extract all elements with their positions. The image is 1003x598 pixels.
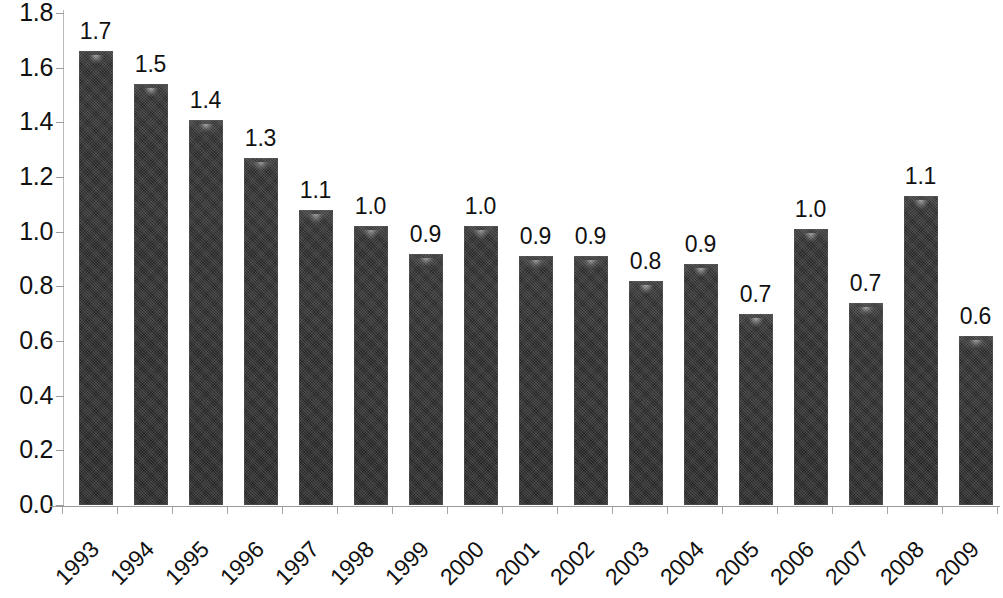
bar-group: 0.6 bbox=[948, 0, 1003, 598]
bar[interactable] bbox=[354, 226, 388, 505]
bar-group: 1.1 bbox=[288, 0, 343, 598]
bar-group: 0.9 bbox=[508, 0, 563, 598]
bar-group: 0.7 bbox=[728, 0, 783, 598]
bar-value-label: 0.8 bbox=[618, 250, 673, 273]
x-axis-tick-mark bbox=[502, 507, 503, 514]
bar-group: 0.9 bbox=[398, 0, 453, 598]
x-axis-tick-mark bbox=[227, 507, 228, 514]
y-axis-tick-label: 0.0 bbox=[1, 492, 53, 517]
bar-value-label: 1.5 bbox=[123, 53, 178, 76]
bar-value-label: 0.9 bbox=[673, 233, 728, 256]
y-axis-tick-mark bbox=[56, 450, 64, 451]
bar[interactable] bbox=[794, 229, 828, 505]
bar[interactable] bbox=[739, 314, 773, 505]
y-axis-tick-label: 1.0 bbox=[1, 219, 53, 244]
x-axis-tick-mark bbox=[282, 507, 283, 514]
bar-group: 1.7 bbox=[68, 0, 123, 598]
bar[interactable] bbox=[959, 336, 993, 505]
y-axis-tick-label: 0.4 bbox=[1, 383, 53, 408]
bar-group: 1.3 bbox=[233, 0, 288, 598]
x-axis-tick-mark bbox=[777, 507, 778, 514]
bar-group: 1.0 bbox=[453, 0, 508, 598]
bar-value-label: 0.9 bbox=[508, 225, 563, 248]
bar-value-label: 0.9 bbox=[563, 225, 618, 248]
x-axis-tick-mark bbox=[942, 507, 943, 514]
bar[interactable] bbox=[244, 158, 278, 505]
bar-group: 1.1 bbox=[893, 0, 948, 598]
bar[interactable] bbox=[464, 226, 498, 505]
bar[interactable] bbox=[79, 51, 113, 505]
bar[interactable] bbox=[904, 196, 938, 505]
y-axis-tick-label: 1.8 bbox=[1, 0, 53, 25]
bar-value-label: 1.1 bbox=[893, 165, 948, 188]
x-axis-tick-mark bbox=[832, 507, 833, 514]
y-axis-tick-label: 1.6 bbox=[1, 55, 53, 80]
y-axis-tick-mark bbox=[56, 286, 64, 287]
bar-group: 1.0 bbox=[343, 0, 398, 598]
bar-value-label: 1.4 bbox=[178, 89, 233, 112]
bar-group: 0.9 bbox=[673, 0, 728, 598]
bar-value-label: 1.7 bbox=[68, 20, 123, 43]
y-axis-tick-labels: 1.81.61.41.21.00.80.60.40.20.0 bbox=[0, 0, 53, 598]
bar-value-label: 1.0 bbox=[343, 195, 398, 218]
x-axis-tick-mark bbox=[557, 507, 558, 514]
bar[interactable] bbox=[684, 264, 718, 505]
y-axis-tick-mark bbox=[56, 232, 64, 233]
y-axis-tick-mark bbox=[56, 396, 64, 397]
bar-value-label: 0.9 bbox=[398, 223, 453, 246]
bar-group: 0.8 bbox=[618, 0, 673, 598]
y-axis-tick-mark bbox=[56, 341, 64, 342]
bar-group: 1.4 bbox=[178, 0, 233, 598]
x-axis-tick-mark bbox=[612, 507, 613, 514]
bar[interactable] bbox=[134, 84, 168, 505]
bar[interactable] bbox=[519, 256, 553, 505]
bar-group: 1.0 bbox=[783, 0, 838, 598]
x-axis-tick-mark bbox=[722, 507, 723, 514]
bar[interactable] bbox=[574, 256, 608, 505]
x-axis-tick-mark bbox=[392, 507, 393, 514]
y-axis-tick-mark bbox=[56, 505, 64, 506]
bar-group: 0.9 bbox=[563, 0, 618, 598]
bar[interactable] bbox=[189, 120, 223, 505]
bar-value-label: 1.0 bbox=[453, 195, 508, 218]
y-axis-tick-label: 1.2 bbox=[1, 164, 53, 189]
bar-value-label: 1.0 bbox=[783, 198, 838, 221]
bar-value-label: 0.7 bbox=[728, 283, 783, 306]
x-axis-tick-mark bbox=[447, 507, 448, 514]
x-axis-tick-mark bbox=[997, 507, 998, 514]
y-axis-tick-mark bbox=[56, 13, 64, 14]
x-axis-tick-mark bbox=[172, 507, 173, 514]
x-axis-tick-mark bbox=[62, 507, 63, 514]
x-axis-line bbox=[50, 506, 1000, 507]
x-axis-tick-mark bbox=[117, 507, 118, 514]
y-axis-tick-mark bbox=[56, 177, 64, 178]
bar-value-label: 0.7 bbox=[838, 272, 893, 295]
bar-group: 1.5 bbox=[123, 0, 178, 598]
y-axis-tick-label: 0.2 bbox=[1, 437, 53, 462]
bar-chart: 1.71.51.41.31.11.00.91.00.90.90.80.90.71… bbox=[0, 0, 1003, 598]
bar[interactable] bbox=[629, 281, 663, 505]
bar[interactable] bbox=[849, 303, 883, 505]
bar-value-label: 1.1 bbox=[288, 179, 343, 202]
y-axis-line bbox=[63, 10, 64, 507]
bar-group: 0.7 bbox=[838, 0, 893, 598]
y-axis-tick-label: 0.8 bbox=[1, 273, 53, 298]
x-axis-tick-mark bbox=[337, 507, 338, 514]
y-axis-tick-mark bbox=[56, 122, 64, 123]
bar-value-label: 1.3 bbox=[233, 127, 288, 150]
x-axis-tick-mark bbox=[887, 507, 888, 514]
bar[interactable] bbox=[299, 210, 333, 505]
bar-value-label: 0.6 bbox=[948, 305, 1003, 328]
y-axis-tick-label: 0.6 bbox=[1, 328, 53, 353]
x-axis-tick-mark bbox=[667, 507, 668, 514]
y-axis-tick-mark bbox=[56, 68, 64, 69]
bar[interactable] bbox=[409, 254, 443, 505]
y-axis-tick-label: 1.4 bbox=[1, 109, 53, 134]
